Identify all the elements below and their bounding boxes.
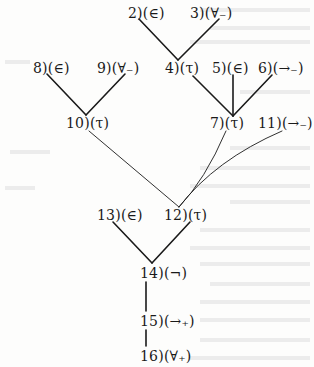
node-9-number: 9) bbox=[97, 60, 112, 76]
node-16-rule: (∀₊) bbox=[164, 348, 192, 364]
node-16-number: 16) bbox=[140, 348, 164, 364]
node-15: 15)(→₊) bbox=[140, 313, 195, 329]
node-3-rule: (∀₋) bbox=[205, 5, 233, 21]
edge-6-7 bbox=[233, 75, 272, 116]
edge-2-4 bbox=[139, 19, 178, 60]
node-6: 6)(→₋) bbox=[258, 60, 304, 76]
edge-12-14 bbox=[152, 222, 190, 263]
node-3-number: 3) bbox=[190, 5, 205, 21]
node-7-number: 7) bbox=[210, 115, 225, 131]
edge-13-14 bbox=[113, 222, 152, 263]
node-4: 4)(τ) bbox=[165, 60, 199, 76]
node-11-rule: (→₋) bbox=[282, 115, 313, 131]
node-11-number: 11) bbox=[258, 115, 282, 131]
edge-11-12 bbox=[179, 131, 282, 207]
node-4-number: 4) bbox=[165, 60, 180, 76]
node-13-rule: (∈) bbox=[121, 207, 143, 223]
edge-7-12 bbox=[179, 131, 226, 207]
page: 2)(∈) 3)(∀₋) 4)(τ) 5)(∈) 6)(→₋) 8)(∈) 9)… bbox=[0, 0, 314, 367]
node-9: 9)(∀₋) bbox=[97, 60, 139, 76]
node-13: 13)(∈) bbox=[97, 207, 143, 223]
node-14-number: 14) bbox=[140, 265, 164, 281]
edge-4-7 bbox=[193, 76, 233, 116]
node-3: 3)(∀₋) bbox=[190, 5, 232, 21]
node-12-number: 12) bbox=[164, 207, 188, 223]
node-11: 11)(→₋) bbox=[258, 115, 313, 131]
node-6-rule: (→₋) bbox=[273, 60, 304, 76]
node-5: 5)(∈) bbox=[212, 60, 249, 76]
node-2: 2)(∈) bbox=[128, 5, 165, 21]
node-12: 12)(τ) bbox=[164, 207, 207, 223]
node-7: 7)(τ) bbox=[210, 115, 244, 131]
node-6-number: 6) bbox=[258, 60, 273, 76]
edge-8-10 bbox=[47, 74, 86, 115]
node-15-number: 15) bbox=[140, 313, 164, 329]
proof-tree-edges bbox=[0, 0, 314, 367]
node-8-rule: (∈) bbox=[48, 60, 70, 76]
node-5-number: 5) bbox=[212, 60, 227, 76]
node-12-rule: (τ) bbox=[188, 207, 207, 223]
node-10-number: 10) bbox=[66, 115, 90, 131]
node-4-rule: (τ) bbox=[180, 60, 199, 76]
node-10-rule: (τ) bbox=[90, 115, 109, 131]
node-2-number: 2) bbox=[128, 5, 143, 21]
node-15-rule: (→₊) bbox=[164, 313, 195, 329]
node-2-rule: (∈) bbox=[143, 5, 165, 21]
node-10: 10)(τ) bbox=[66, 115, 109, 131]
node-9-rule: (∀₋) bbox=[112, 60, 140, 76]
node-5-rule: (∈) bbox=[227, 60, 249, 76]
edge-9-10 bbox=[86, 74, 125, 115]
node-7-rule: (τ) bbox=[225, 115, 244, 131]
node-8: 8)(∈) bbox=[33, 60, 70, 76]
edge-3-4 bbox=[178, 19, 219, 60]
node-8-number: 8) bbox=[33, 60, 48, 76]
node-14: 14)(¬) bbox=[140, 265, 187, 281]
node-14-rule: (¬) bbox=[164, 265, 187, 281]
edge-10-12 bbox=[89, 131, 179, 207]
node-13-number: 13) bbox=[97, 207, 121, 223]
node-16: 16)(∀₊) bbox=[140, 348, 191, 364]
